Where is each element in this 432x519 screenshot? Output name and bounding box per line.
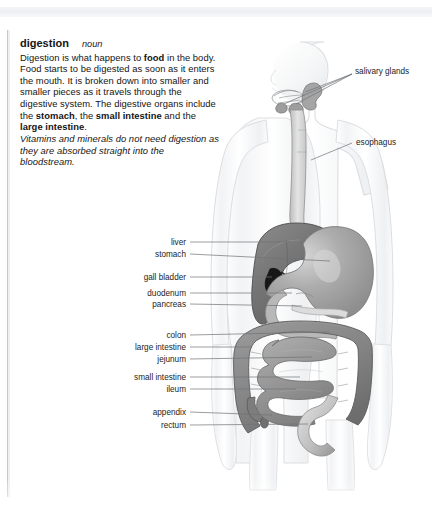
label-appendix: appendix: [153, 408, 186, 417]
label-liver: liver: [171, 238, 186, 247]
digestive-system-figure: [0, 0, 432, 519]
label-esophagus: esophagus: [356, 138, 396, 147]
page-canvas: digestionnoun Digestion is what happens …: [0, 0, 432, 519]
label-small-intestine: small intestine: [134, 373, 186, 382]
label-pancreas: pancreas: [152, 300, 186, 309]
label-salivary-glands: salivary glands: [355, 67, 409, 76]
label-gall-bladder: gall bladder: [144, 273, 186, 282]
label-stomach: stomach: [155, 250, 186, 259]
label-ileum: ileum: [166, 385, 186, 394]
label-jejunum: jejunum: [157, 355, 186, 364]
label-rectum: rectum: [161, 421, 186, 430]
label-duodenum: duodenum: [147, 289, 186, 298]
label-large-intestine: large intestine: [135, 343, 186, 352]
label-colon: colon: [166, 331, 186, 340]
